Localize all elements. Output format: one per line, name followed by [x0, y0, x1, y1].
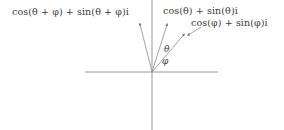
- angle-label-theta: θ: [164, 45, 169, 54]
- complex-plane-figure: cos(θ + φ) + sin(θ + φ)i cos(θ) + sin(θ)…: [0, 0, 284, 130]
- phi-label-leader-line: [188, 27, 202, 36]
- angle-label-phi: φ: [162, 57, 168, 66]
- label-cos-theta-plus-phi: cos(θ + φ) + sin(θ + φ)i: [12, 7, 129, 17]
- label-cos-theta: cos(θ) + sin(θ)i: [163, 6, 238, 16]
- label-cos-phi: cos(φ) + sin(φ)i: [191, 18, 268, 28]
- vector-theta-plus-phi: [140, 23, 152, 72]
